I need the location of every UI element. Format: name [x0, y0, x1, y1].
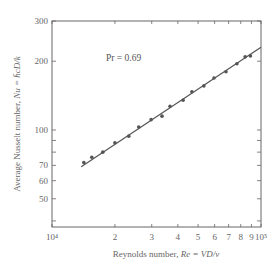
- data-point: [127, 134, 131, 138]
- data-point: [249, 54, 253, 58]
- x-axis-ticks: 10⁴2345678910⁵: [46, 21, 267, 242]
- data-point: [181, 98, 185, 102]
- x-axis-title: Reynolds number, Re = VD/ν: [113, 249, 219, 259]
- nusselt-reynolds-chart: 10⁴2345678910⁵ 300200100706050 Pr = 0.69…: [0, 0, 277, 272]
- y-tick-label: 60: [39, 176, 49, 186]
- data-point: [149, 118, 153, 122]
- y-axis-ticks: 300200100706050: [35, 16, 262, 221]
- y-tick-label: 100: [35, 125, 49, 135]
- data-point: [82, 161, 86, 165]
- x-tick-label: 8: [238, 232, 243, 242]
- prandtl-annotation: Pr = 0.69: [106, 53, 141, 63]
- x-tick-label: 9: [249, 232, 254, 242]
- x-tick-label: 7: [226, 232, 231, 242]
- x-tick-label: 4: [176, 232, 181, 242]
- data-point: [190, 90, 194, 94]
- y-tick-label: 70: [39, 160, 49, 170]
- x-tick-label: 3: [149, 232, 154, 242]
- y-tick-label: 50: [39, 194, 49, 204]
- data-point: [168, 104, 172, 108]
- data-point: [224, 70, 228, 74]
- plot-border: [52, 21, 261, 227]
- y-tick-label: 300: [35, 16, 49, 26]
- data-point: [202, 84, 206, 88]
- data-point: [113, 141, 117, 145]
- x-tick-label: 10⁵: [255, 232, 267, 242]
- data-point: [137, 125, 141, 129]
- x-tick-label: 6: [212, 232, 217, 242]
- x-tick-label: 5: [196, 232, 201, 242]
- data-point: [160, 114, 164, 118]
- y-tick-label: 200: [35, 56, 49, 66]
- data-series: [81, 47, 261, 166]
- x-tick-label: 2: [113, 232, 118, 242]
- y-axis-title: Average Nusselt number, Nu = h̄cD/k: [12, 55, 22, 192]
- data-point: [235, 62, 239, 66]
- data-point: [90, 155, 94, 159]
- data-point: [243, 55, 247, 59]
- data-point: [212, 76, 216, 80]
- x-tick-label: 10⁴: [46, 232, 58, 242]
- plot-frame: [52, 21, 261, 227]
- data-point: [101, 150, 105, 154]
